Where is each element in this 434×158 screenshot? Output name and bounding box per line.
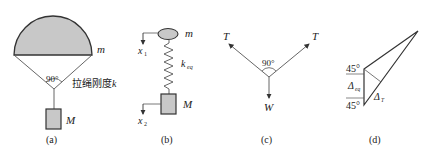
panel-c-force-diagram: T T 90° W (c)	[223, 30, 319, 146]
rope-k-label: k	[112, 78, 117, 89]
tension-right-arrow	[269, 44, 309, 77]
bottom-block	[161, 94, 176, 114]
caption-d: (d)	[369, 134, 381, 146]
spring-label: k	[181, 58, 186, 69]
delta-eq-label: Δ	[347, 80, 354, 91]
rope-stiffness-label: 拉绳刚度	[72, 77, 112, 89]
top-mass	[158, 29, 178, 40]
panel-b-spring-mass: m x 1 k eq M x 2 (b)	[137, 27, 193, 146]
spring-subscript: eq	[187, 64, 193, 70]
caption-c: (c)	[261, 134, 272, 146]
bottom-mass-label: M	[182, 98, 193, 110]
angle-label: 90°	[262, 58, 275, 68]
weight-label: W	[264, 101, 274, 113]
canopy-semicircle	[14, 16, 92, 55]
figure-canvas: m 90° 拉绳刚度 k M (a) m x 1 k eq M x 2 (b) …	[0, 0, 434, 158]
angle-label: 90°	[46, 74, 59, 84]
caption-a: (a)	[46, 134, 57, 146]
load-block	[46, 109, 61, 129]
load-mass-label: M	[65, 114, 76, 126]
angle-bottom-label: 45°	[346, 100, 360, 111]
delta-t-subscript: T	[381, 97, 385, 103]
tension-right-label: T	[312, 30, 319, 42]
top-mass-label: m	[185, 27, 193, 39]
inner-line	[364, 69, 381, 82]
tension-left-label: T	[223, 30, 230, 42]
x2-subscript: 2	[144, 121, 147, 127]
angle-arc	[262, 68, 276, 71]
panel-a-parachute: m 90° 拉绳刚度 k M (a)	[14, 16, 117, 146]
deformation-triangle	[364, 31, 418, 105]
x1-label: x	[137, 45, 143, 56]
angle-top-label: 45°	[346, 63, 360, 74]
spring-coil	[164, 40, 173, 94]
x2-label: x	[137, 115, 143, 126]
delta-eq-subscript: eq	[355, 86, 360, 92]
delta-t-label: Δ	[373, 91, 380, 102]
canopy-mass-label: m	[97, 43, 105, 55]
panel-d-deformation-geometry: 45° Δ eq 45° Δ T (d)	[346, 31, 418, 146]
x1-subscript: 1	[144, 51, 147, 57]
caption-b: (b)	[161, 134, 173, 146]
